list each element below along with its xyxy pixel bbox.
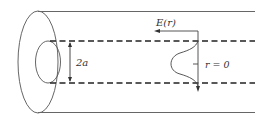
axis-arrow-down-icon (196, 86, 200, 92)
core-end-face (36, 41, 61, 83)
field-label: E(r) (155, 17, 176, 28)
axis-label: r = 0 (205, 59, 230, 70)
gaussian-profile-curve (171, 41, 198, 86)
field-arrow-left-icon (154, 29, 160, 33)
fiber-diagram: 2a E(r) r = 0 (0, 0, 271, 124)
core-diameter-arrow (68, 42, 72, 82)
core-diameter-label: 2a (75, 57, 88, 68)
cladding-end-face (18, 11, 58, 113)
